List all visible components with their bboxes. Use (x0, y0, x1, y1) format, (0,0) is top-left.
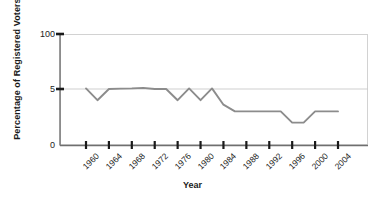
x-axis-title: Year (0, 180, 385, 190)
x-tick-labels: 1960196419681972197619801984198819921996… (0, 0, 385, 199)
chart-figure: Percentage of Registered Voters 05100 19… (0, 0, 385, 199)
